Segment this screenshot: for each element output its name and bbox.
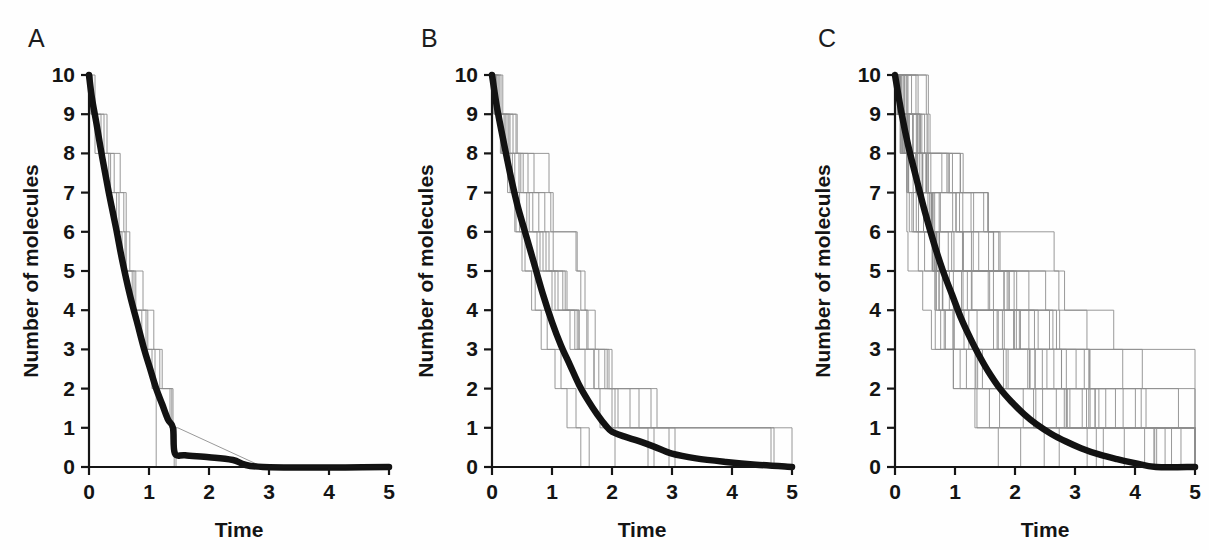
x-tick-label: 3 [666, 480, 678, 503]
panel-b: B 012345012345678910TimeNumber of molecu… [403, 0, 806, 550]
x-axis-title: Time [618, 518, 667, 541]
panel-c-plot: 012345012345678910TimeNumber of molecule… [806, 0, 1209, 550]
y-tick-label: 9 [869, 102, 881, 125]
x-tick-label: 0 [83, 480, 95, 503]
x-axis-title: Time [215, 518, 264, 541]
y-tick-label: 9 [466, 102, 478, 125]
y-tick-label: 3 [63, 337, 75, 360]
y-tick-label: 3 [466, 337, 478, 360]
y-tick-label: 3 [869, 337, 881, 360]
y-tick-label: 1 [466, 416, 478, 439]
y-tick-label: 5 [869, 259, 881, 282]
x-tick-label: 2 [606, 480, 618, 503]
panel-c: C 012345012345678910TimeNumber of molecu… [806, 0, 1209, 550]
panel-a: A 012345012345678910TimeNumber of molecu… [0, 0, 403, 550]
x-axis-title: Time [1021, 518, 1070, 541]
y-tick-label: 7 [466, 181, 478, 204]
y-tick-label: 8 [466, 141, 478, 164]
x-tick-label: 0 [486, 480, 498, 503]
trajectory-line [89, 75, 389, 467]
y-tick-label: 6 [63, 220, 75, 243]
y-tick-label: 4 [869, 298, 881, 321]
y-tick-label: 10 [52, 63, 75, 86]
x-tick-label: 5 [1189, 480, 1201, 503]
x-tick-label: 3 [1069, 480, 1081, 503]
panel-b-plot: 012345012345678910TimeNumber of molecule… [403, 0, 806, 550]
y-tick-label: 8 [63, 141, 75, 164]
y-tick-label: 10 [455, 63, 478, 86]
y-tick-label: 9 [63, 102, 75, 125]
y-axis-title: Number of molecules [811, 164, 834, 378]
x-tick-label: 4 [1129, 480, 1141, 503]
figure-three-panel-stochastic-decay: A 012345012345678910TimeNumber of molecu… [0, 0, 1209, 550]
y-tick-label: 5 [63, 259, 75, 282]
x-tick-label: 2 [203, 480, 215, 503]
x-tick-label: 2 [1009, 480, 1021, 503]
y-tick-label: 0 [63, 455, 75, 478]
y-tick-label: 6 [466, 220, 478, 243]
y-tick-label: 7 [869, 181, 881, 204]
panel-a-plot: 012345012345678910TimeNumber of molecule… [0, 0, 403, 550]
y-tick-label: 8 [869, 141, 881, 164]
mean-curve [492, 75, 792, 467]
y-tick-label: 2 [63, 377, 75, 400]
x-tick-label: 3 [263, 480, 275, 503]
y-tick-label: 7 [63, 181, 75, 204]
y-axis-title: Number of molecules [19, 164, 42, 378]
y-tick-label: 10 [858, 63, 881, 86]
y-tick-label: 6 [869, 220, 881, 243]
x-tick-label: 1 [546, 480, 558, 503]
x-tick-label: 4 [726, 480, 738, 503]
y-axis-title: Number of molecules [414, 164, 437, 378]
y-tick-label: 0 [466, 455, 478, 478]
y-tick-label: 4 [466, 298, 478, 321]
y-tick-label: 2 [466, 377, 478, 400]
x-tick-label: 1 [143, 480, 155, 503]
x-tick-label: 4 [323, 480, 335, 503]
y-tick-label: 4 [63, 298, 75, 321]
tick-labels: 012345012345678910 [52, 63, 396, 503]
axes [484, 75, 792, 475]
x-tick-label: 1 [949, 480, 961, 503]
y-tick-label: 1 [869, 416, 881, 439]
axes [887, 75, 1195, 475]
x-tick-label: 5 [786, 480, 798, 503]
x-tick-label: 0 [889, 480, 901, 503]
trajectory-group [89, 75, 389, 467]
y-tick-label: 1 [63, 416, 75, 439]
y-tick-label: 2 [869, 377, 881, 400]
y-tick-label: 5 [466, 259, 478, 282]
y-tick-label: 0 [869, 455, 881, 478]
x-tick-label: 5 [383, 480, 395, 503]
